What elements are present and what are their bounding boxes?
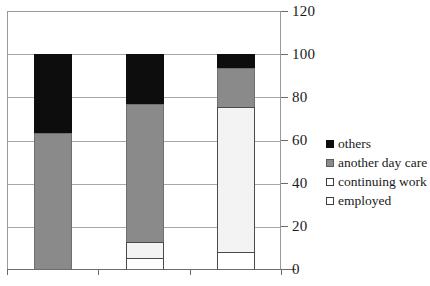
segment-continuing-work-2[interactable]: [126, 242, 164, 259]
y-axis-tick-80: [281, 97, 288, 98]
segment-another-day-care-2[interactable]: [126, 104, 164, 243]
segment-others-3[interactable]: [217, 54, 255, 69]
legend-label-others: others: [338, 137, 371, 151]
segment-another-day-care-3[interactable]: [217, 68, 255, 108]
legend-item-another-day-care[interactable]: another day care: [326, 153, 430, 172]
y-axis-tick-0: [281, 269, 288, 270]
black-square-swatch-icon: [326, 140, 334, 148]
y-axis-label-80: 80: [292, 90, 307, 105]
y-axis-label-0: 0: [292, 262, 300, 277]
y-axis-label-60: 60: [292, 133, 307, 148]
x-axis-tick: [190, 270, 191, 275]
y-axis-tick-120: [281, 11, 288, 12]
chart-legend: others another day care continuing work …: [326, 134, 430, 210]
y-axis-tick-40: [281, 183, 288, 184]
y-axis-tick-100: [281, 54, 288, 55]
legend-item-continuing-work[interactable]: continuing work: [326, 172, 430, 191]
y-axis-tick-60: [281, 140, 288, 141]
x-axis-tick: [281, 270, 282, 275]
legend-item-employed[interactable]: employed: [326, 191, 430, 210]
segment-continuing-work-3[interactable]: [217, 107, 255, 253]
segment-others-1[interactable]: [34, 54, 72, 133]
legend-item-others[interactable]: others: [326, 134, 430, 153]
legend-label-another-day-care: another day care: [338, 156, 427, 170]
gray-square-swatch-icon: [326, 159, 334, 167]
segment-employed-3[interactable]: [217, 252, 255, 270]
white-square-swatch-icon: [326, 197, 334, 205]
x-axis-line: [7, 269, 296, 270]
y-axis-label-20: 20: [292, 219, 307, 234]
x-axis-tick: [7, 270, 8, 275]
segment-another-day-care-1[interactable]: [34, 133, 72, 270]
legend-label-employed: employed: [338, 194, 391, 208]
white-square-swatch-icon: [326, 178, 334, 186]
y-axis-tick-20: [281, 226, 288, 227]
y-axis-label-100: 100: [292, 47, 315, 62]
legend-label-continuing-work: continuing work: [338, 175, 427, 189]
y-axis-label-120: 120: [292, 4, 315, 19]
x-axis-tick: [98, 270, 99, 275]
bars-layer: [7, 11, 281, 270]
y-axis-label-40: 40: [292, 176, 307, 191]
stacked-bar-chart: 120 100 80 60 40 20 0 others another day…: [0, 0, 430, 286]
segment-others-2[interactable]: [126, 54, 164, 104]
